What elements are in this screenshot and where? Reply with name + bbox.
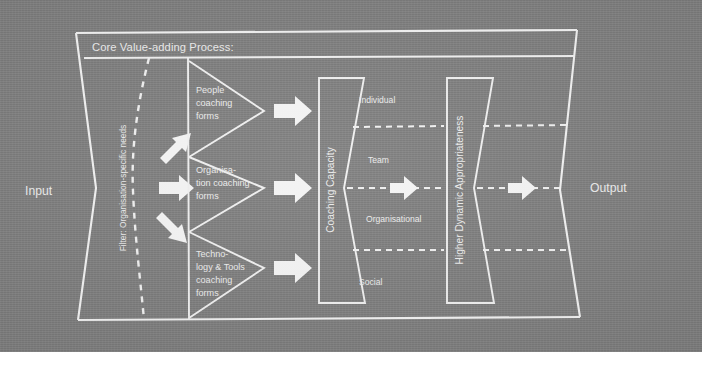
higher-dynamic-appropriateness-label: Higher Dynamic Appropriateness: [454, 116, 465, 265]
level-label-organisational: Organisational: [366, 214, 422, 224]
funnel-organisation-line-3: forms: [196, 191, 219, 201]
funnel-organisation-line-2: tion coaching: [196, 178, 250, 188]
funnel-technology-output-arrow-icon: [274, 253, 312, 283]
header-label: Core Value-adding Process:: [92, 41, 234, 53]
frame-bottom-edge: [78, 317, 580, 320]
frame-top-edge: [76, 30, 577, 33]
arrow-down-right-icon: [156, 212, 187, 243]
funnel-technology-line-1: Techno-: [196, 249, 228, 259]
funnel-technology-line-3: coaching: [196, 275, 232, 285]
funnel-people-line-1: People: [196, 85, 224, 95]
input-label: Input: [25, 184, 53, 198]
funnel-technology-line-4: forms: [196, 288, 219, 298]
level-label-individual: Individual: [359, 95, 395, 105]
funnel-technology-line-2: logy & Tools: [196, 262, 245, 272]
level-separator-individual-team-left: [353, 126, 444, 127]
funnel-organisation-output-arrow-icon: [274, 173, 312, 203]
funnel-people-output-arrow-icon: [274, 96, 312, 126]
filter-dashed-boundary: [133, 58, 149, 320]
funnel-people-line-2: coaching: [196, 98, 232, 108]
frame-right-edge: [560, 30, 580, 317]
output-label: Output: [590, 181, 627, 195]
funnel-column-divider: [188, 58, 189, 320]
funnel-people-shape: [189, 61, 264, 157]
funnel-organisation-line-1: Organisa-: [196, 165, 236, 175]
level-label-team: Team: [368, 155, 389, 165]
arrow-up-right-icon: [160, 133, 191, 164]
photo-background: Core Value-adding Process: Input Output …: [0, 0, 702, 352]
funnel-people-line-3: forms: [196, 111, 219, 121]
capacity-to-appropriateness-arrow-icon: [390, 176, 418, 200]
appropriateness-to-output-arrow-icon: [508, 176, 536, 200]
level-label-social: Social: [359, 277, 382, 287]
coaching-capacity-label: Coaching Capacity: [325, 146, 336, 232]
filter-label: Filter: Organisation-specific needs: [118, 125, 128, 252]
figure-canvas: Core Value-adding Process: Input Output …: [0, 0, 713, 366]
frame-left-edge: [76, 33, 96, 320]
level-separator-individual-team-right: [483, 125, 569, 126]
process-diagram: Core Value-adding Process: Input Output …: [0, 0, 702, 352]
header-band-rule: [84, 56, 575, 58]
